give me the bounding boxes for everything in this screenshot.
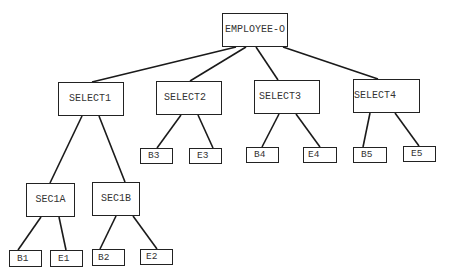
edge-select2-b3 — [157, 115, 181, 148]
node-b3: B3 — [140, 148, 173, 164]
node-e2: E2 — [140, 249, 173, 265]
node-b2: B2 — [92, 249, 125, 266]
node-e1: E1 — [50, 250, 83, 267]
edge-select3-b4 — [262, 114, 279, 147]
node-label: SEC1B — [101, 194, 131, 204]
edge-select2-e3 — [198, 115, 213, 148]
node-e5: E5 — [403, 146, 436, 162]
node-select4: SELECT4 — [353, 79, 420, 113]
edge-employee-select1 — [92, 47, 236, 82]
node-label: SELECT4 — [354, 91, 396, 101]
edge-select3-e4 — [296, 114, 320, 147]
edge-sec1a-b1 — [18, 217, 41, 250]
edge-sec1b-b2 — [100, 216, 116, 249]
edge-sec1a-e1 — [59, 217, 66, 250]
edge-select4-e5 — [395, 113, 419, 146]
node-label: SEC1A — [35, 195, 65, 205]
node-label: EMPLOYEE-O — [225, 25, 285, 35]
node-label: E1 — [58, 254, 69, 264]
node-label: E5 — [411, 149, 422, 159]
node-label: SELECT1 — [69, 94, 111, 104]
node-sec1a: SEC1A — [26, 183, 75, 217]
node-label: B2 — [98, 253, 109, 263]
edge-select1-sec1a — [50, 116, 82, 183]
node-select3: SELECT3 — [254, 80, 320, 114]
node-sec1b: SEC1B — [92, 182, 140, 216]
edge-select4-b5 — [363, 113, 370, 147]
node-b4: B4 — [246, 147, 279, 163]
node-e3: E3 — [189, 148, 222, 164]
node-label: B4 — [254, 150, 265, 160]
employee-tree-diagram: EMPLOYEE-O SELECT1 SELECT2 SELECT3 SELEC… — [0, 0, 449, 279]
node-select2: SELECT2 — [156, 81, 222, 115]
edge-employee-select3 — [256, 47, 278, 80]
node-employee-o: EMPLOYEE-O — [222, 13, 288, 47]
node-label: E3 — [197, 151, 208, 161]
node-label: SELECT2 — [164, 93, 206, 103]
node-label: E4 — [308, 150, 319, 160]
node-b1: B1 — [9, 250, 42, 267]
edge-employee-select4 — [283, 47, 378, 79]
edge-sec1b-e2 — [133, 216, 157, 249]
node-select1: SELECT1 — [58, 82, 124, 116]
node-label: E2 — [146, 252, 157, 262]
node-e4: E4 — [303, 147, 337, 163]
node-b5: B5 — [353, 147, 387, 163]
node-label: SELECT3 — [259, 92, 301, 102]
node-label: B5 — [361, 150, 372, 160]
edge-select1-sec1b — [99, 116, 125, 182]
node-label: B1 — [17, 254, 28, 264]
node-label: B3 — [148, 151, 159, 161]
